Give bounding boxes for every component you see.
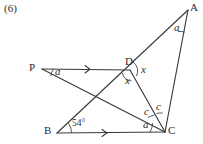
segment-BC xyxy=(57,132,165,133)
angle-label-at-C-middle: c xyxy=(144,106,149,117)
angle-label-at-B: 54° xyxy=(72,119,85,129)
vertex-label-B: B xyxy=(44,125,51,136)
angle-label-at-C-right: c xyxy=(156,101,161,112)
vertex-label-C: C xyxy=(168,125,175,136)
angle-label-at-A: a xyxy=(174,22,180,33)
vertex-label-P: P xyxy=(29,62,35,73)
vertex-label-D: D xyxy=(125,56,133,67)
geometry-figure: (6) A P D B C a a x x 54° a c c xyxy=(0,0,203,144)
angle-label-at-D-below: x xyxy=(125,75,130,86)
question-number: (6) xyxy=(4,3,17,14)
vertex-label-A: A xyxy=(190,2,198,13)
angle-arc-at-C-right xyxy=(157,113,163,114)
angle-label-at-C-left: a xyxy=(143,119,149,130)
angle-label-at-P: a xyxy=(55,66,61,77)
angle-label-at-D-right: x xyxy=(141,64,146,75)
angle-arc-at-D-right xyxy=(133,62,138,76)
